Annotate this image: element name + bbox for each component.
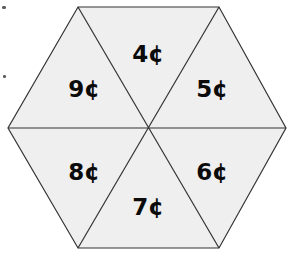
hexagon-figure: Hexagon divided into six triangular sect… (0, 0, 293, 258)
hexagon-diagram-canvas: Hexagon divided into six triangular sect… (0, 0, 293, 258)
sector-label-top: 4¢ (132, 41, 163, 67)
sector-label-upper-left: 9¢ (68, 76, 99, 102)
sector-label-bottom: 7¢ (132, 194, 163, 220)
sector-label-lower-right: 6¢ (196, 159, 227, 185)
scan-speck-top-left (2, 6, 6, 9)
sector-label-upper-right: 5¢ (196, 76, 227, 102)
sector-label-lower-left: 8¢ (68, 159, 99, 185)
scan-speck-left-mid (3, 75, 6, 78)
